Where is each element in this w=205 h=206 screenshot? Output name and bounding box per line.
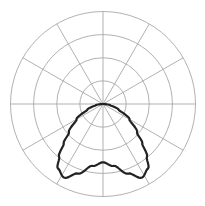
polar-chart bbox=[0, 0, 205, 206]
